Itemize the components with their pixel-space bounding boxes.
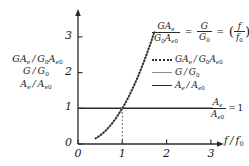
- annotation-equals: =: [226, 103, 237, 113]
- legend-item-g-g0: G / G0: [152, 66, 223, 79]
- annotation-value: 1: [238, 103, 244, 113]
- legend-label-g-g0: G / G0: [175, 67, 200, 78]
- x-axis-label: f / f0: [224, 135, 244, 148]
- legend-swatch-gray-line-icon: [152, 68, 172, 77]
- ae-ae0-fraction: Ae Ae0: [209, 97, 226, 120]
- equals-sign-2: =: [215, 27, 226, 37]
- y-axis-arrow: [75, 9, 81, 16]
- equals-sign-1: =: [183, 27, 194, 37]
- y-axis-label-line-1: GAe / G0Ae0: [2, 54, 70, 65]
- legend: GAe / G0Ae0 G / G0 Ae / Ae0: [152, 53, 223, 92]
- y-tick-label-1: 1: [60, 101, 72, 113]
- legend-swatch-black-line-icon: [152, 81, 172, 90]
- effective-area-gain-chart: GAe / G0Ae0 G / G0 Ae / Ae0 3 2 1 0 0 1 …: [0, 0, 249, 166]
- x-axis-arrow: [217, 141, 224, 147]
- series-line-g-g0: [96, 31, 155, 138]
- equation-annotation: GAe G0Ae0 = G G0 = (ff0)2: [152, 21, 249, 44]
- equation-mid-fraction: G G0: [197, 21, 212, 43]
- y-axis-label-line-3: Ae / Ae0: [2, 79, 70, 90]
- legend-item-gae-g0ae0: GAe / G0Ae0: [152, 53, 223, 66]
- series-line-gae-g0ae0: [96, 31, 155, 138]
- y-tick-label-3: 3: [60, 30, 72, 42]
- ae-ae0-equals-one-annotation: Ae Ae0 = 1: [209, 97, 243, 120]
- legend-swatch-dotted-icon: [152, 55, 172, 64]
- legend-label-ae-ae0: Ae / Ae0: [175, 80, 205, 91]
- equation-lhs-fraction: GAe G0Ae0: [152, 21, 180, 44]
- legend-label-gae-g0ae0: GAe / G0Ae0: [175, 54, 223, 65]
- equation-rhs-fraction: ff0: [234, 21, 245, 43]
- legend-item-ae-ae0: Ae / Ae0: [152, 79, 223, 92]
- close-paren: ): [245, 23, 249, 39]
- x-tick-marks: [78, 140, 211, 145]
- y-tick-label-0: 0: [60, 137, 72, 149]
- x-tick-label-1: 1: [116, 148, 128, 160]
- y-tick-label-2: 2: [60, 66, 72, 78]
- x-tick-label-3: 3: [205, 148, 217, 160]
- x-tick-label-0: 0: [72, 148, 84, 160]
- y-tick-marks: [78, 37, 83, 144]
- x-tick-label-2: 2: [161, 148, 173, 160]
